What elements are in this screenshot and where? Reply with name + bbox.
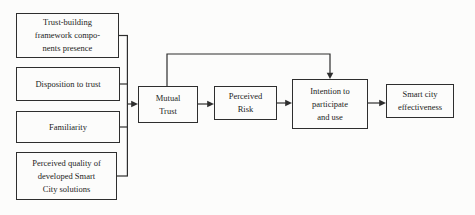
box-label-line: Familiarity	[49, 121, 87, 134]
box-label-line: and use	[317, 111, 343, 124]
arrowhead-mutual-to-risk	[207, 101, 214, 108]
box-label-line: developed Smart	[38, 170, 95, 183]
box-label-line: participate	[312, 98, 348, 111]
box-familiarity: Familiarity	[16, 111, 120, 143]
box-label-line: Perceived	[229, 90, 263, 103]
box-label-line: Trust-building	[43, 16, 92, 29]
box-label-line: framework compo-	[35, 29, 100, 42]
box-label-line: City solutions	[43, 183, 90, 196]
arrowhead-risk-to-intention	[285, 100, 292, 107]
box-label-line: Perceived quality of	[32, 157, 100, 170]
box-mutual-trust: Mutual Trust	[138, 86, 198, 123]
box-label-line: Disposition to trust	[35, 78, 100, 91]
box-label-line: Intention to	[310, 85, 349, 98]
box-perceived-risk: Perceived Risk	[214, 86, 277, 120]
box-perceived-quality: Perceived quality of developed Smart Cit…	[16, 152, 117, 200]
box-disposition-to-trust: Disposition to trust	[16, 67, 120, 101]
arrowhead-bus-to-mutual	[131, 101, 138, 108]
box-trust-building-framework: Trust-building framework compo- nents pr…	[16, 13, 119, 58]
box-smart-city-effectiveness: Smart city effectiveness	[386, 84, 454, 118]
diagram-canvas: Trust-building framework compo- nents pr…	[0, 0, 475, 215]
arrowhead-intention-to-smart	[379, 100, 386, 107]
box-label-line: Trust	[159, 105, 177, 118]
box-label-line: effectiveness	[398, 101, 442, 114]
box-label-line: Risk	[238, 103, 254, 116]
box-intention-to-participate: Intention to participate and use	[292, 79, 368, 129]
box-label-line: Smart city	[402, 88, 437, 101]
box-label-line: nents presence	[43, 42, 93, 55]
box-label-line: Mutual	[156, 92, 181, 105]
